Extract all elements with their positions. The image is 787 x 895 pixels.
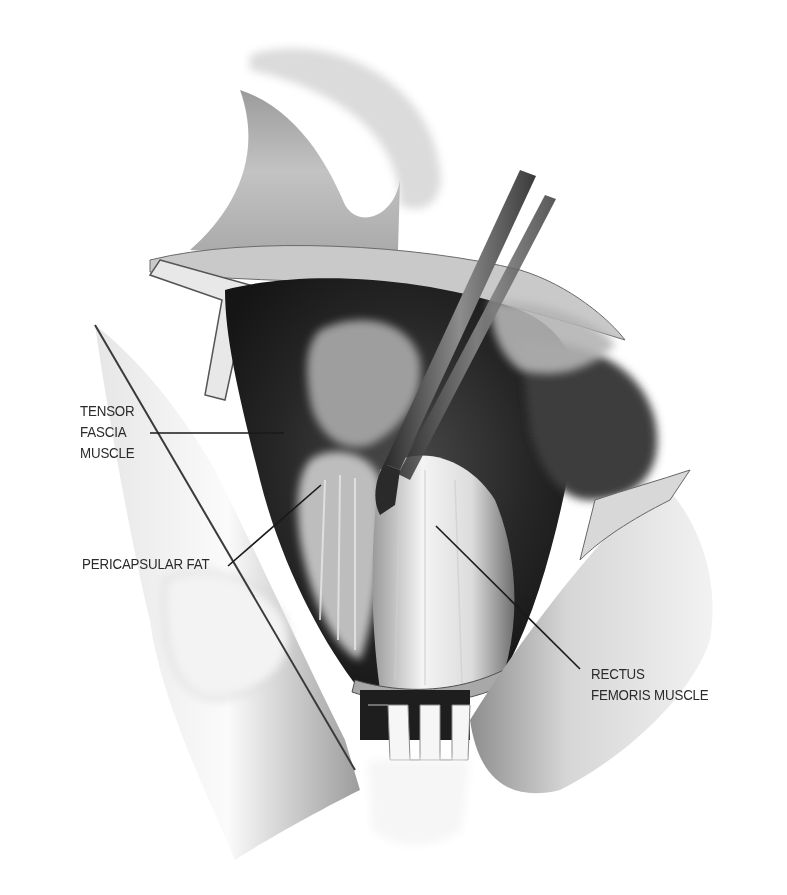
label-line: TENSOR — [80, 400, 135, 421]
label-tensor-fascia-muscle: TENSOR FASCIA MUSCLE — [80, 400, 135, 463]
label-line: FASCIA — [80, 421, 135, 442]
label-line: PERICAPSULAR FAT — [82, 553, 209, 574]
label-line: FEMORIS MUSCLE — [591, 684, 709, 705]
label-line: MUSCLE — [80, 442, 135, 463]
label-pericapsular-fat: PERICAPSULAR FAT — [82, 553, 209, 574]
label-line: RECTUS — [591, 663, 709, 684]
label-rectus-femoris-muscle: RECTUS FEMORIS MUSCLE — [591, 663, 709, 705]
